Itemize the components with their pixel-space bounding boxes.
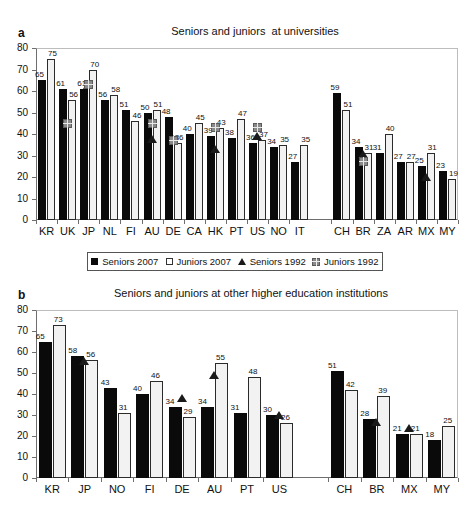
y-axis-tick-mark [32, 113, 36, 114]
y-axis-tick-mark [32, 373, 36, 374]
bar-juniors-2007 [150, 381, 163, 478]
bar-value-label: 25 [443, 417, 452, 425]
x-axis-tick-mark [184, 220, 185, 224]
bar-value-label: 58 [111, 86, 120, 94]
bar-seniors-2007 [169, 407, 182, 478]
x-axis-tick-mark [395, 220, 396, 224]
bar-value-label: 50 [141, 104, 150, 112]
filled-triangle-icon [238, 258, 246, 265]
marker-seniors-1992 [79, 357, 89, 365]
y-axis-tick-label: 40 [6, 129, 28, 139]
marker-seniors-1992 [404, 424, 414, 432]
x-axis-label-my: MY [437, 226, 458, 237]
bar-juniors-2007 [427, 153, 435, 220]
bar-juniors-2007 [280, 423, 293, 478]
bar-juniors-2007 [47, 59, 55, 220]
x-axis-tick-mark [231, 478, 232, 482]
bar-value-label: 73 [54, 316, 63, 324]
bar-value-label: 46 [132, 112, 141, 120]
bar-value-label: 45 [196, 114, 205, 122]
x-axis-label-jp: JP [68, 484, 100, 495]
bar-value-label: 51 [119, 101, 128, 109]
bar-value-label: 34 [352, 138, 361, 146]
panel-a-letter: a [18, 26, 25, 40]
x-axis-label-nl: NL [99, 226, 120, 237]
bar-value-label: 59 [330, 84, 339, 92]
bar-value-label: 21 [393, 425, 402, 433]
x-axis-label-ar: AR [395, 226, 416, 237]
y-axis-tick-mark [32, 199, 36, 200]
x-axis-label-my: MY [426, 484, 458, 495]
bar-value-label: 42 [346, 381, 355, 389]
x-axis-tick-mark [57, 220, 58, 224]
marker-seniors-1992 [209, 371, 219, 379]
y-axis-tick-mark [32, 177, 36, 178]
bar-value-label: 35 [280, 136, 289, 144]
y-axis-tick-label: 50 [6, 108, 28, 118]
x-axis-tick-mark [120, 220, 121, 224]
bar-seniors-2007 [234, 413, 247, 478]
bar-seniors-2007 [333, 93, 341, 220]
x-axis-label-pt: PT [231, 484, 263, 495]
x-axis-label-us: US [263, 484, 295, 495]
x-axis-label-kr: KR [36, 484, 68, 495]
bar-seniors-2007 [122, 110, 130, 220]
bar-juniors-2007 [68, 100, 76, 220]
bar-seniors-2007 [104, 388, 117, 478]
x-axis-label-pt: PT [226, 226, 247, 237]
marker-juniors-1992 [84, 80, 93, 89]
x-axis-label-no: NO [268, 226, 289, 237]
y-axis-tick-label: 70 [6, 326, 28, 336]
bar-juniors-2007 [53, 325, 66, 478]
bar-value-label: 27 [288, 153, 297, 161]
bar-seniors-2007 [101, 100, 109, 220]
x-axis-label-ch: CH [328, 484, 360, 495]
bar-seniors-2007 [39, 342, 52, 479]
bar-seniors-2007 [439, 171, 447, 220]
marker-juniors-1992 [253, 123, 262, 132]
x-axis-tick-mark [133, 478, 134, 482]
panel-b: b Seniors and juniors at other higher ed… [0, 280, 470, 513]
x-axis-tick-mark [416, 220, 417, 224]
bar-juniors-2007 [131, 121, 139, 220]
marker-seniors-1992 [147, 135, 157, 143]
marker-seniors-1992 [358, 150, 368, 158]
x-axis-tick-mark [263, 478, 264, 482]
bar-juniors-2007 [216, 128, 224, 220]
legend-label: Seniors 2007 [102, 256, 158, 267]
x-axis-tick-mark [78, 220, 79, 224]
x-axis-tick-mark [393, 478, 394, 482]
panel-a: a Seniors and juniors at universities 01… [0, 0, 470, 280]
y-axis-tick-label: 70 [6, 65, 28, 75]
bar-juniors-2007 [85, 360, 98, 478]
x-axis-tick-mark [142, 220, 143, 224]
y-axis-tick-label: 0 [6, 215, 28, 225]
y-axis-tick-label: 30 [6, 410, 28, 420]
bar-seniors-2007 [201, 407, 214, 478]
chart-legend: Seniors 2007Juniors 2007Seniors 1992Juni… [87, 252, 383, 271]
bar-juniors-2007 [174, 143, 182, 220]
bar-seniors-2007 [59, 89, 67, 220]
bar-value-label: 46 [151, 372, 160, 380]
bar-value-label: 48 [162, 108, 171, 116]
marker-juniors-1992 [359, 157, 368, 166]
x-axis-label-it: IT [289, 226, 310, 237]
marker-juniors-1992 [169, 136, 178, 145]
bar-seniors-2007 [136, 394, 149, 478]
x-axis-label-fi: FI [120, 226, 141, 237]
bar-seniors-2007 [270, 147, 278, 220]
x-axis-tick-mark [36, 478, 37, 482]
bar-juniors-2007 [237, 119, 245, 220]
bar-seniors-2007 [71, 356, 84, 478]
y-axis-tick-mark [32, 156, 36, 157]
marker-seniors-1992 [421, 173, 431, 181]
x-axis-label-br: BR [361, 484, 393, 495]
panel-a-plot-area: 010203040506070806575KR6156UK6170JP5658N… [36, 48, 458, 220]
y-axis-tick-label: 80 [6, 43, 28, 53]
x-axis-label-de: DE [166, 484, 198, 495]
x-axis-label-hk: HK [205, 226, 226, 237]
y-axis-tick-label: 60 [6, 86, 28, 96]
bar-value-label: 34 [166, 398, 175, 406]
bar-value-label: 40 [386, 125, 395, 133]
marker-seniors-1992 [371, 418, 381, 426]
